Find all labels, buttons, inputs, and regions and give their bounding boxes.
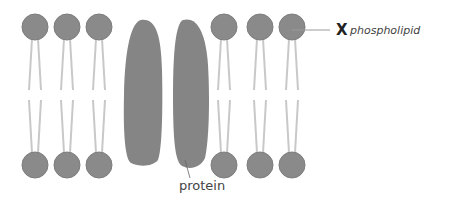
- marker-x-label: X: [336, 21, 348, 39]
- tail-segment: [61, 39, 64, 90]
- phospholipid-head: [54, 152, 80, 178]
- tail-segment: [254, 39, 257, 90]
- phospholipid-head: [54, 14, 80, 40]
- phospholipid-head: [279, 152, 305, 178]
- tail-segment: [61, 100, 64, 153]
- phospholipid-head: [211, 14, 237, 40]
- tail-segment: [286, 100, 289, 153]
- tail-segment: [38, 100, 41, 153]
- tail-segment: [29, 100, 32, 153]
- protein-left: [124, 20, 163, 166]
- tail-segment: [93, 39, 96, 90]
- phospholipid-head: [22, 14, 48, 40]
- tail-segment: [263, 100, 266, 153]
- tail-segment: [254, 100, 257, 153]
- membrane-diagram: X phospholipid protein: [0, 0, 458, 213]
- tail-segment: [295, 39, 298, 90]
- tail-segment: [70, 100, 73, 153]
- tail-segment: [70, 39, 73, 90]
- phospholipid-head: [247, 152, 273, 178]
- tail-segment: [295, 100, 298, 153]
- phospholipid-head: [211, 152, 237, 178]
- tail-segment: [29, 39, 32, 90]
- tail-segment: [102, 100, 105, 153]
- tail-segment: [227, 100, 230, 153]
- tail-segment: [286, 39, 289, 90]
- phospholipid-head: [247, 14, 273, 40]
- tail-segment: [218, 100, 221, 153]
- tail-segment: [38, 39, 41, 90]
- phospholipid-heads: [22, 14, 305, 178]
- tail-segment: [218, 39, 221, 90]
- protein-right: [173, 19, 209, 167]
- phospholipid-head: [22, 152, 48, 178]
- tail-segment: [93, 100, 96, 153]
- tail-segment: [263, 39, 266, 90]
- protein-label: protein: [179, 178, 225, 193]
- tail-segment: [102, 39, 105, 90]
- phospholipid-label: phospholipid: [350, 24, 420, 37]
- phospholipid-head: [86, 152, 112, 178]
- fatty-acid-tails: [29, 39, 298, 153]
- phospholipid-head: [279, 14, 305, 40]
- phospholipid-head: [86, 14, 112, 40]
- tail-segment: [227, 39, 230, 90]
